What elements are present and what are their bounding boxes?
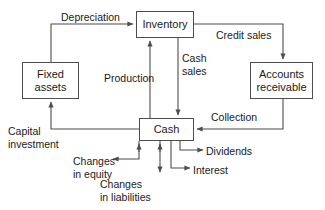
edge-capital-investment <box>51 102 139 129</box>
edge-label-changes-in-equity: Changes in equity <box>73 155 115 180</box>
node-cash-label: Cash <box>152 123 182 136</box>
edge-label-collection: Collection <box>211 111 257 124</box>
node-fixed-assets[interactable]: Fixed assets <box>22 62 79 99</box>
edge-label-interest: Interest <box>193 164 228 177</box>
edge-changes-in-equity <box>113 141 139 159</box>
node-accounts-receivable-label: Accounts receivable <box>251 68 312 94</box>
edge-label-credit-sales: Credit sales <box>216 29 271 42</box>
edge-label-changes-in-liabilities: Changes in liabilities <box>100 178 151 203</box>
node-accounts-receivable[interactable]: Accounts receivable <box>250 62 313 99</box>
node-inventory-label: Inventory <box>140 18 189 31</box>
node-fixed-assets-label: Fixed assets <box>23 68 78 94</box>
edge-label-production: Production <box>104 72 154 85</box>
edge-label-dividends: Dividends <box>206 145 252 158</box>
edge-dividends <box>180 141 203 150</box>
edge-depreciation <box>51 24 133 62</box>
node-cash[interactable]: Cash <box>139 118 194 141</box>
edge-label-depreciation: Depreciation <box>61 11 120 24</box>
edge-label-cash-sales: Cash sales <box>182 52 207 77</box>
node-inventory[interactable]: Inventory <box>136 11 194 38</box>
edge-label-capital-investment: Capital investment <box>8 125 59 150</box>
cash-flow-diagram: Inventory Fixed assets Accounts receivab… <box>0 0 325 210</box>
